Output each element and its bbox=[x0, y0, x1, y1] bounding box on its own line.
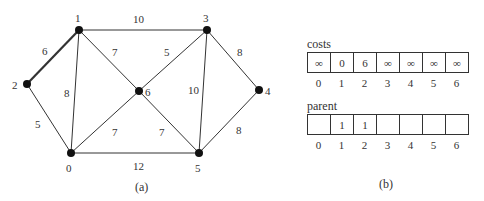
parent-index: 4 bbox=[399, 139, 422, 151]
costs-index: 2 bbox=[353, 77, 376, 89]
parent-cell-1: 1 bbox=[331, 115, 354, 134]
node-5 bbox=[195, 149, 203, 157]
edge-weight: 10 bbox=[133, 13, 145, 25]
node-label: 2 bbox=[12, 79, 18, 91]
costs-label: costs bbox=[307, 37, 331, 52]
arrays-caption: (b) bbox=[379, 177, 393, 192]
node-6 bbox=[135, 87, 143, 95]
parent-cell-4 bbox=[400, 115, 423, 134]
costs-cell-6: ∞ bbox=[446, 53, 469, 72]
edge-1-6 bbox=[79, 30, 139, 91]
edge-weight: 10 bbox=[188, 84, 200, 96]
node-label: 6 bbox=[145, 86, 151, 98]
node-1 bbox=[75, 26, 83, 34]
costs-index: 5 bbox=[422, 77, 445, 89]
edge-weight: 7 bbox=[159, 126, 165, 138]
node-label: 0 bbox=[66, 162, 72, 174]
graph-caption: (a) bbox=[135, 180, 148, 195]
edge-weight: 8 bbox=[64, 87, 70, 99]
costs-cell-5: ∞ bbox=[423, 53, 446, 72]
node-label: 3 bbox=[203, 12, 209, 24]
parent-index: 5 bbox=[422, 139, 445, 151]
parent-index: 3 bbox=[376, 139, 399, 151]
edge-weight: 5 bbox=[164, 46, 170, 58]
node-0 bbox=[67, 149, 75, 157]
costs-cell-2: 6 bbox=[354, 53, 377, 72]
edge-3-6 bbox=[139, 30, 207, 91]
edge-6-5 bbox=[139, 91, 199, 153]
costs-index: 4 bbox=[399, 77, 422, 89]
parent-array: 1 1 bbox=[307, 114, 469, 135]
graph-nodes bbox=[23, 26, 263, 157]
edge-weight: 7 bbox=[112, 126, 118, 138]
node-label: 4 bbox=[265, 85, 271, 97]
costs-index: 3 bbox=[376, 77, 399, 89]
costs-index: 0 bbox=[307, 77, 330, 89]
parent-cell-3 bbox=[377, 115, 400, 134]
costs-cell-3: ∞ bbox=[377, 53, 400, 72]
edge-6-0 bbox=[71, 91, 139, 153]
node-3 bbox=[203, 26, 211, 34]
edge-3-5 bbox=[199, 30, 207, 153]
node-4 bbox=[255, 86, 263, 94]
parent-cell-2: 1 bbox=[354, 115, 377, 134]
costs-array: ∞ 0 6 ∞ ∞ ∞ ∞ bbox=[307, 52, 469, 73]
node-2 bbox=[23, 80, 31, 88]
costs-cell-0: ∞ bbox=[308, 53, 331, 72]
weighted-graph: 610875581077812 0123456 bbox=[0, 0, 300, 201]
edge-1-0 bbox=[71, 30, 79, 153]
parent-index: 1 bbox=[330, 139, 353, 151]
edge-weight: 8 bbox=[236, 124, 242, 136]
node-label: 1 bbox=[75, 12, 81, 24]
costs-cell-4: ∞ bbox=[400, 53, 423, 72]
costs-cell-1: 0 bbox=[331, 53, 354, 72]
edge-weight: 5 bbox=[35, 118, 41, 130]
parent-label: parent bbox=[307, 99, 337, 114]
parent-cell-5 bbox=[423, 115, 446, 134]
node-label: 5 bbox=[195, 162, 201, 174]
edge-weight: 7 bbox=[112, 46, 118, 58]
costs-index: 6 bbox=[445, 77, 468, 89]
edge-weight: 12 bbox=[133, 160, 144, 172]
edge-weight: 8 bbox=[237, 46, 243, 58]
parent-index: 0 bbox=[307, 139, 330, 151]
edge-4-5 bbox=[199, 90, 259, 153]
parent-cell-6 bbox=[446, 115, 469, 134]
parent-cell-0 bbox=[308, 115, 331, 134]
edge-3-4 bbox=[207, 30, 259, 90]
edge-weight: 6 bbox=[42, 45, 48, 57]
edge-1-2 bbox=[27, 30, 79, 84]
costs-indices: 0 1 2 3 4 5 6 bbox=[307, 77, 468, 89]
costs-index: 1 bbox=[330, 77, 353, 89]
graph-edges bbox=[27, 30, 259, 153]
parent-index: 2 bbox=[353, 139, 376, 151]
parent-indices: 0 1 2 3 4 5 6 bbox=[307, 139, 468, 151]
parent-index: 6 bbox=[445, 139, 468, 151]
